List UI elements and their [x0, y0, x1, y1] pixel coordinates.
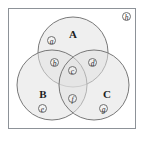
region-marker-b: b — [50, 58, 59, 67]
set-label-b: B — [36, 88, 50, 100]
region-marker-g: g — [99, 104, 108, 113]
region-marker-c: c — [68, 66, 77, 75]
set-label-c: C — [100, 88, 114, 100]
region-marker-e: e — [38, 104, 47, 113]
set-label-a: A — [66, 28, 80, 40]
region-marker-a: a — [47, 36, 56, 45]
region-marker-h: h — [122, 12, 131, 21]
region-marker-f: f — [68, 94, 77, 103]
venn-diagram-figure: A B C a b c d e f g h — [0, 0, 147, 151]
region-marker-d: d — [88, 58, 97, 67]
